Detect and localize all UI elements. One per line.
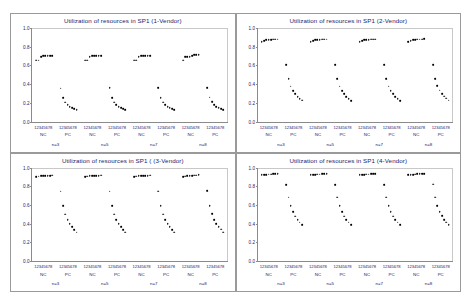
x-tick-mark — [340, 261, 341, 262]
x-tick-mark — [415, 122, 416, 123]
x-tick-mark — [210, 122, 211, 123]
x-tick-mark — [351, 261, 352, 262]
x-tick-mark — [275, 261, 276, 262]
x-tick-number-row: 1234567812345678123456781234567812345678… — [31, 125, 228, 132]
data-point — [64, 102, 66, 104]
x-tick-mark — [302, 122, 303, 123]
data-point — [113, 213, 115, 215]
x-tick-mark — [125, 261, 126, 262]
x-tick-mark — [351, 122, 352, 123]
x-tick-mark — [449, 261, 450, 262]
x-tick-mark — [311, 261, 312, 262]
x-tick-mark — [360, 261, 361, 262]
x-category-label: PC — [163, 132, 169, 137]
x-tick-mark — [165, 122, 166, 123]
x-tick-mark — [364, 122, 365, 123]
y-tick-label: 1.0 — [249, 165, 255, 170]
x-group-row: n=3n=5n=7n=8 — [257, 142, 454, 149]
x-tick-mark — [375, 122, 376, 123]
x-tick-number-label: 12345678 — [432, 264, 450, 269]
figure-canvas: Utilization of resources in SP1 (1-Vendo… — [0, 0, 471, 305]
x-tick-mark — [395, 122, 396, 123]
x-tick-mark — [362, 122, 363, 123]
x-tick-mark — [395, 261, 396, 262]
data-point — [432, 184, 434, 186]
x-tick-mark — [148, 122, 149, 123]
x-tick-number-label: 12345678 — [34, 264, 52, 269]
chart-panel-2-vendor[interactable]: Utilization of resources in SP1 (2-Vendo… — [236, 13, 462, 153]
x-tick-mark — [442, 122, 443, 123]
y-tick-mark — [256, 47, 258, 48]
x-tick-mark — [116, 261, 117, 262]
data-point — [350, 224, 352, 226]
x-tick-mark — [90, 122, 91, 123]
data-point — [113, 102, 115, 104]
y-tick-label: 0.2 — [23, 240, 29, 245]
x-category-label: PC — [389, 132, 395, 137]
data-point — [290, 205, 292, 207]
x-tick-mark — [94, 122, 95, 123]
x-tick-mark — [68, 261, 69, 262]
x-tick-mark — [92, 261, 93, 262]
x-category-label: NC — [413, 272, 419, 277]
x-group-label: n=8 — [425, 142, 432, 147]
x-tick-mark — [199, 261, 200, 262]
x-tick-mark — [400, 261, 401, 262]
scatter-points-layer: 1.00.80.60.40.20.0 — [258, 168, 454, 262]
data-point — [301, 100, 303, 102]
x-group-label: n=3 — [277, 281, 284, 286]
x-tick-mark — [41, 122, 42, 123]
x-tick-mark — [187, 261, 188, 262]
x-category-label: PC — [438, 132, 444, 137]
x-tick-mark — [192, 122, 193, 123]
x-tick-mark — [90, 261, 91, 262]
x-tick-mark — [371, 261, 372, 262]
data-point — [343, 215, 345, 217]
x-tick-mark — [344, 261, 345, 262]
x-tick-mark — [435, 122, 436, 123]
x-tick-mark — [50, 261, 51, 262]
x-tick-mark — [298, 122, 299, 123]
x-tick-mark — [264, 122, 265, 123]
x-tick-mark — [170, 261, 171, 262]
data-point — [222, 231, 224, 233]
y-tick-label: 0.0 — [23, 259, 29, 264]
x-tick-mark — [52, 261, 53, 262]
data-point — [60, 191, 62, 193]
x-tick-mark — [424, 122, 425, 123]
x-tick-mark — [411, 122, 412, 123]
x-group-label: n=5 — [101, 281, 108, 286]
x-tick-mark — [420, 122, 421, 123]
chart-panel-4-vendor[interactable]: Utilization of resources in SP1 (4-Vendo… — [236, 153, 462, 293]
data-point — [288, 78, 290, 80]
x-tick-mark — [286, 261, 287, 262]
data-point — [392, 93, 394, 95]
x-group-row: n=3n=5n=7n=8 — [31, 142, 228, 149]
x-tick-mark — [92, 122, 93, 123]
x-category-label: NC — [266, 272, 272, 277]
y-tick-mark — [256, 242, 258, 243]
chart-panel-1-vendor[interactable]: Utilization of resources in SP1 (1-Vendo… — [10, 13, 236, 153]
x-tick-mark — [183, 122, 184, 123]
x-group-row: n=3n=5n=7n=8 — [257, 281, 454, 288]
data-point — [285, 64, 287, 66]
x-tick-mark — [293, 261, 294, 262]
x-tick-mark — [317, 261, 318, 262]
x-tick-mark — [269, 261, 270, 262]
data-point — [222, 109, 224, 111]
x-tick-mark — [337, 122, 338, 123]
x-category-label: NC — [187, 132, 193, 137]
panel-title: Utilization of resources in SP1 ( (3-Ven… — [11, 157, 235, 164]
x-tick-mark — [300, 261, 301, 262]
x-category-row: NCPCNCPCNCPCNCPC — [31, 272, 228, 279]
x-tick-mark — [216, 122, 217, 123]
x-tick-mark — [214, 122, 215, 123]
data-point — [182, 59, 184, 61]
data-point — [51, 175, 53, 177]
chart-panel-3-vendor[interactable]: Utilization of resources in SP1 ( (3-Ven… — [10, 153, 236, 293]
panel-title: Utilization of resources in SP1 (4-Vendo… — [237, 157, 461, 164]
x-tick-mark — [134, 122, 135, 123]
x-category-row: NCPCNCPCNCPCNCPC — [257, 272, 454, 279]
data-point — [220, 229, 222, 231]
y-tick-label: 1.0 — [249, 26, 255, 31]
